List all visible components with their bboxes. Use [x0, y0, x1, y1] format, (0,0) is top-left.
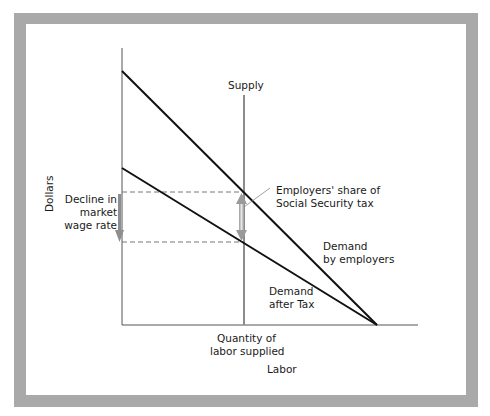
x-axis-label: Labor: [267, 363, 297, 376]
y-axis-label: Dollars: [43, 175, 55, 212]
quantity-label-line1: Quantity of: [217, 332, 276, 345]
supply-label: Supply: [228, 79, 264, 92]
demand-after-tax-label-line2: after Tax: [269, 298, 315, 311]
demand-after-tax-label-line1: Demand: [269, 285, 314, 298]
decline-label-line2: market: [80, 206, 117, 219]
employers-share-label-line2: Social Security tax: [276, 197, 374, 210]
employers-share-arrow: [236, 193, 247, 241]
decline-label-line1: Decline in: [65, 193, 117, 206]
demand-employers-label-line2: by employers: [323, 253, 394, 266]
demand-employers-label-line1: Demand: [323, 240, 368, 253]
employers-share-label-line1: Employers' share of: [276, 184, 380, 197]
decline-label-line3: wage rate: [64, 219, 117, 232]
quantity-label-line2: labor supplied: [210, 345, 285, 358]
